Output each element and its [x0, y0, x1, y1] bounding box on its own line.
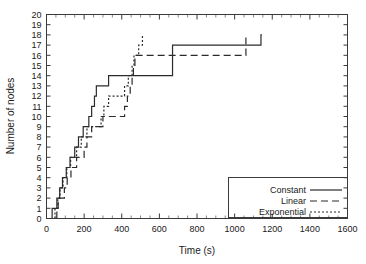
y-tick-label: 20: [31, 10, 41, 20]
x-tick-label: 1200: [262, 224, 282, 234]
y-tick-label: 8: [36, 132, 41, 142]
y-tick-label: 18: [31, 30, 41, 40]
y-tick-label: 10: [31, 112, 41, 122]
tick-labels-group: 0200400600800100012001400160001234567891…: [31, 10, 357, 234]
data-series-group: [52, 35, 262, 219]
y-tick-label: 14: [31, 71, 41, 81]
legend-label-exponential[interactable]: Exponential: [259, 207, 306, 217]
chart-figure: 0200400600800100012001400160001234567891…: [0, 0, 366, 264]
series-line-constant: [52, 35, 262, 219]
x-tick-label: 1000: [225, 224, 245, 234]
y-tick-label: 9: [36, 122, 41, 132]
y-tick-label: 17: [31, 40, 41, 50]
y-axis-title: Number of nodes: [5, 78, 16, 155]
x-tick-label: 800: [189, 224, 204, 234]
y-tick-label: 16: [31, 51, 41, 61]
y-tick-label: 5: [36, 163, 41, 173]
y-tick-label: 0: [36, 214, 41, 224]
x-tick-label: 0: [44, 224, 49, 234]
legend-label-constant[interactable]: Constant: [270, 185, 307, 195]
y-tick-label: 7: [36, 142, 41, 152]
y-tick-label: 4: [36, 173, 41, 183]
y-tick-label: 2: [36, 193, 41, 203]
x-tick-label: 600: [152, 224, 167, 234]
y-tick-label: 19: [31, 20, 41, 30]
y-tick-label: 6: [36, 153, 41, 163]
x-tick-label: 200: [77, 224, 92, 234]
x-tick-label: 1400: [300, 224, 320, 234]
y-tick-label: 12: [31, 91, 41, 101]
y-tick-label: 13: [31, 81, 41, 91]
x-tick-label: 1600: [337, 224, 357, 234]
legend-label-linear[interactable]: Linear: [281, 196, 306, 206]
x-tick-label: 400: [114, 224, 129, 234]
y-tick-label: 1: [36, 204, 41, 214]
y-tick-label: 15: [31, 61, 41, 71]
chart-legend[interactable]: ConstantLinearExponential: [229, 178, 348, 218]
y-tick-label: 3: [36, 183, 41, 193]
x-axis-title: Time (s): [179, 245, 215, 256]
chart-canvas: 0200400600800100012001400160001234567891…: [0, 0, 366, 264]
y-tick-label: 11: [32, 102, 41, 112]
